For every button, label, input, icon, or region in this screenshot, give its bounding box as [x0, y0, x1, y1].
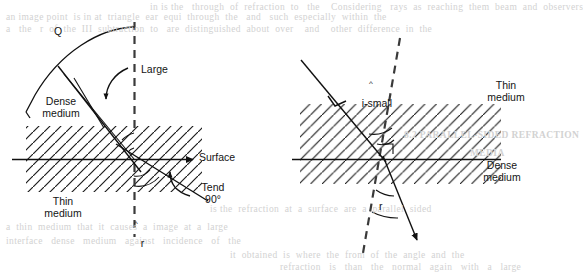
left-surface-label: Surface	[199, 152, 235, 164]
right-refraction-angle-arc	[376, 190, 394, 196]
right-diagram-group	[292, 38, 501, 253]
left-arc-end-tick	[26, 112, 30, 118]
left-refracted-ray-label: ^ r	[129, 198, 143, 261]
ghost-line: MEDIA	[470, 148, 550, 158]
ghost-line: in is the through of refraction to the C…	[150, 2, 550, 12]
ghost-line: it obtained is where the from of the ang…	[230, 250, 550, 260]
left-thin-medium-label: Thin medium	[34, 196, 92, 219]
right-refracted-ray-label: r	[379, 201, 383, 213]
ghost-line: an image point is in at triangle ear equ…	[6, 12, 546, 22]
left-angle-q-label: Q	[54, 26, 62, 38]
ghost-line: refraction is than the normal again with…	[280, 262, 550, 272]
left-refracted-ray-letter: r	[141, 237, 145, 249]
ghost-line: a thin medium that it causes a image at …	[6, 222, 306, 232]
ghost-line: interface dense medium against incidence…	[6, 236, 326, 246]
ghost-line: a the r of the III subtraction to are di…	[6, 24, 546, 34]
right-i-small-label: ^ i-small	[348, 58, 394, 121]
left-dense-medium-label: Dense medium	[32, 96, 90, 119]
right-thin-medium-label: Thin medium	[476, 80, 536, 103]
circumflex-accent-icon: ^	[129, 221, 143, 226]
ghost-line: is the refraction at a surface are a par…	[210, 204, 540, 214]
right-dense-medium-label: Dense medium	[470, 160, 534, 183]
ghost-line: 8.2 PARALLEL-SIDED REFRACTION	[404, 130, 554, 140]
left-tend90-label: Tend 90°	[193, 182, 233, 205]
left-large-label: Large	[141, 64, 168, 76]
left-large-curved-arrow	[106, 68, 128, 99]
right-i-small-text: i-small	[362, 97, 392, 109]
circumflex-accent-icon: ^	[348, 81, 394, 86]
